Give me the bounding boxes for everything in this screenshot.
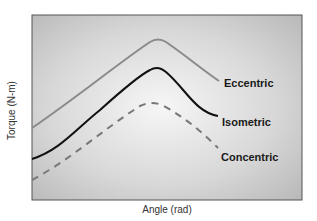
y-axis-label-text: Torque (N-m) xyxy=(6,81,17,140)
isometric-label: Isometric xyxy=(222,116,271,128)
plot-area xyxy=(0,0,317,221)
concentric-label: Concentric xyxy=(221,151,278,163)
eccentric-label: Eccentric xyxy=(224,77,274,89)
chart: Torque (N-m) Angle (rad) Eccentric Isome… xyxy=(0,0,317,221)
y-axis-label: Torque (N-m) xyxy=(4,60,18,160)
x-axis-label: Angle (rad) xyxy=(32,204,302,215)
